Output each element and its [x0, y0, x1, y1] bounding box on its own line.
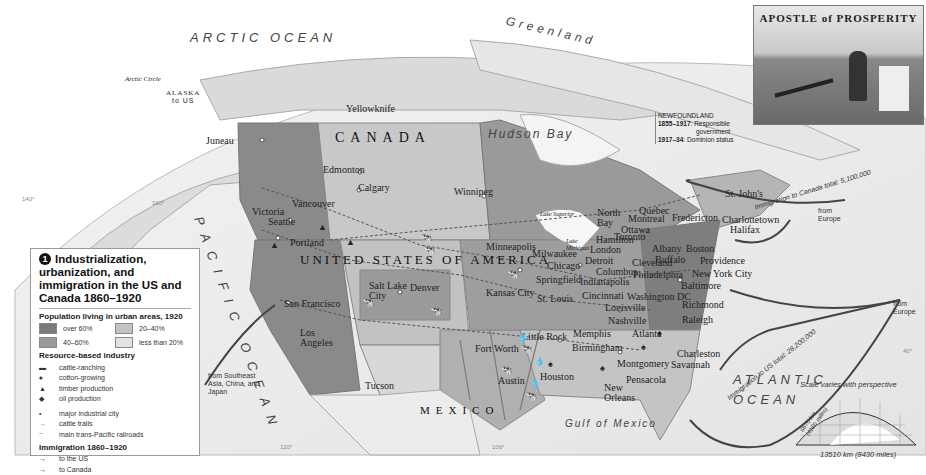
city-providence: Providence — [700, 255, 745, 266]
sacks — [879, 66, 909, 111]
farmer-figure — [849, 51, 867, 101]
cotton-icon: ♠ — [657, 328, 662, 338]
oil-drop-icon: 💧 — [530, 378, 540, 387]
railroad-line-icon: ┈ — [39, 430, 59, 438]
city-memphis: Memphis — [573, 328, 611, 339]
label-canada-from-europe: from Europe — [818, 207, 848, 223]
tree-icon: ▲ — [270, 240, 279, 250]
cattle-icon: 🐄 — [500, 364, 512, 375]
graticule-label: 120° — [280, 444, 292, 450]
city-minneapolis: Minneapolis — [486, 241, 536, 252]
label-from-asia: from Southeast Asia, China, and Japan — [208, 372, 268, 396]
city-savannah: Savannah — [671, 359, 710, 370]
cotton-icon: ♠ — [548, 359, 553, 369]
city-montgomery: Montgomery — [617, 358, 669, 369]
cattle-icon: 🐄 — [362, 296, 374, 307]
legend-population-heading: Population living in urban areas, 1920 — [39, 312, 191, 321]
label-lake-michigan: Lake Michigan — [566, 238, 588, 252]
city-london: London — [590, 244, 621, 255]
city-san-francisco: San Francisco — [284, 298, 340, 309]
cotton-icon: ♠ — [641, 342, 646, 352]
newfoundland-name: NEWFOUNDLAND — [658, 112, 734, 120]
city-denver: Denver — [410, 282, 439, 293]
cattle-icon: ▬ — [39, 364, 59, 371]
oil-drop-icon: 💧 — [518, 333, 528, 342]
city-yellowknife: Yellowknife — [346, 103, 395, 114]
arrow-icon: → — [39, 455, 59, 462]
poster-title: APOSTLE of PROSPERITY — [754, 12, 923, 24]
label-lake-superior: Lake Superior — [540, 211, 574, 217]
city-new-orleans: New Orleans — [604, 383, 634, 403]
city-austin: Austin — [498, 375, 525, 386]
city-st-johns: St. John's — [725, 188, 763, 199]
city-chicago: Chicago — [547, 260, 580, 271]
city-north-bay: North Bay — [597, 208, 621, 228]
graticule-label: 40° — [903, 348, 912, 354]
graticule-label: 160° — [152, 200, 164, 206]
city-ottawa: Ottawa — [621, 224, 650, 235]
label-gulf-of-mexico: Gulf of Mexico — [565, 418, 657, 429]
legend-row-cotton: ♠cotton-growing — [39, 373, 191, 384]
cattle-icon: 🐄 — [525, 390, 537, 401]
city-baltimore: Baltimore — [681, 280, 721, 291]
city-philadelphia: Philadelphia — [633, 269, 683, 280]
city-washington-dc: Washington DC — [627, 291, 691, 302]
cattle-icon: 🐄 — [507, 268, 519, 279]
graticule-label: 140° — [22, 196, 34, 202]
city-vancouver: Vancouver — [292, 198, 335, 209]
cotton-icon: ♠ — [600, 363, 605, 373]
scale-indicator: Scale varies with perspective 6670 km (4… — [790, 380, 926, 465]
legend-row-oil: ◆oil production — [39, 394, 191, 405]
map-legend: 1Industrialization, urbanization, and im… — [30, 248, 200, 456]
tree-icon: ▲ — [346, 237, 355, 247]
city-portland: Portland — [290, 237, 324, 248]
city-edmonton: Edmonton — [323, 164, 365, 175]
cattle-icon: 🐄 — [420, 232, 432, 243]
legend-resource-heading: Resource-based industry — [39, 351, 191, 360]
label-mexico: MEXICO — [420, 404, 499, 416]
city-new-york-city: New York City — [692, 268, 752, 279]
city-dot-icon: • — [39, 410, 59, 417]
city-little-rock: Little Rock — [522, 331, 567, 342]
plow — [775, 78, 834, 97]
city-birmingham: Birmingham — [572, 342, 623, 353]
city-los-angeles: Los Angeles — [300, 328, 330, 348]
city-boston: Boston — [686, 243, 714, 254]
legend-row-cattle-trails: →cattle trails — [39, 419, 191, 430]
city-seattle: Seattle — [268, 216, 295, 227]
city-st-louis: St. Louis — [537, 293, 573, 304]
city-charleston: Charleston — [677, 348, 720, 359]
city-fort-worth: Fort Worth — [475, 343, 519, 354]
city-raleigh: Raleigh — [682, 314, 713, 325]
poster-image: APOSTLE of PROSPERITY — [753, 5, 924, 125]
graticule-label: 100° — [492, 444, 504, 450]
city-indianapolis: Indianapolis — [580, 276, 629, 287]
city-fredericton: Fredericton — [672, 212, 718, 223]
cattle-trail-arrow-icon: → — [39, 420, 59, 427]
cattle-icon: 🐄 — [520, 343, 532, 354]
label-canada: CANADA — [335, 130, 431, 146]
label-alaska: ALASKAto US — [166, 89, 200, 105]
legend-title: 1Industrialization, urbanization, and im… — [39, 253, 191, 309]
city-albany: Albany — [652, 243, 681, 254]
label-us-from-europe: from Europe — [893, 300, 923, 316]
label-arctic-circle: Arctic Circle — [125, 75, 161, 83]
city-halifax: Halifax — [730, 224, 760, 235]
city-cleveland: Cleveland — [632, 257, 673, 268]
city-salt-lake-city: Salt Lake City — [369, 281, 409, 301]
city-springfield: Springfield — [536, 274, 581, 285]
legend-row-timber: ▲timber production — [39, 383, 191, 394]
legend-row-cattle: ▬cattle-ranching — [39, 362, 191, 373]
tree-icon: ▲ — [318, 222, 327, 232]
oil-drop-icon: 💧 — [535, 357, 545, 366]
city-kansas-city: Kansas City — [486, 287, 535, 298]
cattle-icon: 🐄 — [423, 244, 435, 255]
city-juneau: Juneau — [206, 135, 234, 146]
scale-title: Scale varies with perspective — [800, 380, 897, 389]
label-arctic-ocean: ARCTIC OCEAN — [190, 30, 336, 45]
legend-swatch-over-60: over 60% — [39, 323, 115, 334]
cattle-icon: 🐄 — [430, 305, 442, 316]
label-hudson-bay: Hudson Bay — [488, 127, 573, 141]
city-tucson: Tucson — [365, 380, 394, 391]
city-louisville: Louisville — [605, 302, 646, 313]
